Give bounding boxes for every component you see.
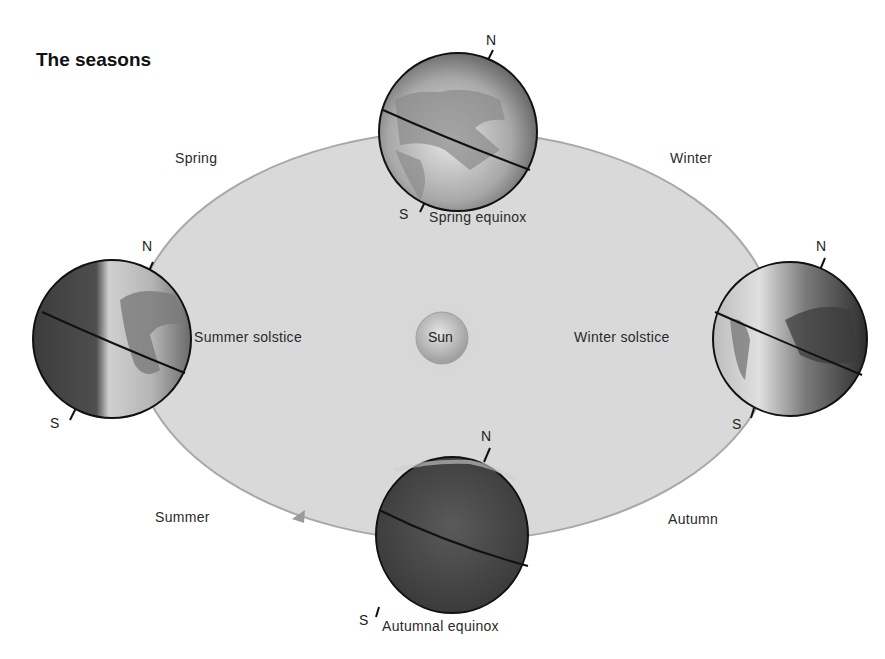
pole-north-spring: N — [486, 32, 496, 48]
pole-south-spring: S — [399, 206, 408, 222]
season-label-summer: Summer — [155, 509, 210, 525]
season-label-winter: Winter — [670, 150, 712, 166]
pole-south-winter: S — [732, 416, 741, 432]
season-label-autumn: Autumn — [668, 511, 718, 527]
pole-south-autumn: S — [359, 612, 368, 628]
position-label-winter-solstice: Winter solstice — [574, 329, 670, 345]
position-label-summer-solstice: Summer solstice — [194, 329, 302, 345]
season-label-spring: Spring — [175, 150, 217, 166]
sun-label: Sun — [428, 329, 453, 345]
pole-north-winter: N — [816, 238, 826, 254]
position-label-autumnal-equinox: Autumnal equinox — [382, 618, 499, 634]
globe-summer-solstice — [33, 260, 191, 420]
globe-spring-equinox — [379, 50, 537, 212]
pole-north-summer: N — [142, 238, 152, 254]
pole-north-autumn: N — [481, 428, 491, 444]
pole-south-summer: S — [50, 415, 59, 431]
position-label-spring-equinox: Spring equinox — [429, 209, 527, 225]
